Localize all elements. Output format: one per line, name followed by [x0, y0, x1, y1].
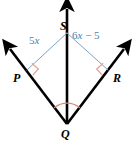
geometry-figure: P Q R S 5x 6x − 5 [0, 0, 133, 147]
ray-QR [67, 49, 124, 124]
point-label-Q: Q [61, 128, 70, 140]
segment-label-SP-variable: x [35, 34, 40, 46]
segment-label-SR-variable: x [78, 29, 83, 41]
point-label-R: R [113, 72, 121, 84]
point-label-P: P [13, 72, 20, 84]
ray-QP [10, 49, 67, 124]
segment-label-SR: 6x − 5 [72, 30, 100, 41]
point-label-S: S [60, 20, 67, 32]
segment-label-SR-constant: − 5 [85, 29, 99, 41]
segment-label-SP: 5x [29, 35, 39, 46]
